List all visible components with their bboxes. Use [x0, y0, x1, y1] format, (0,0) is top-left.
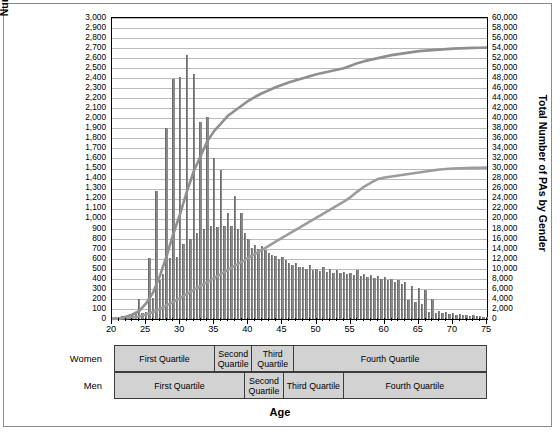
- y-tick-left: 2,400: [60, 73, 106, 81]
- x-tick-minor: [343, 318, 344, 321]
- x-tick-minor: [309, 318, 310, 321]
- x-tick-minor: [404, 318, 405, 321]
- quartile-row: MenFirst QuartileSecondQuartileThird Qua…: [18, 372, 486, 399]
- y-tick-left: 2,700: [60, 43, 106, 51]
- y-tick-right: 12,000: [492, 254, 538, 262]
- y-tick-right: 38,000: [492, 123, 538, 131]
- x-tick-minor: [466, 318, 467, 321]
- x-tick-minor: [411, 318, 412, 321]
- x-tick-minor: [152, 318, 153, 321]
- y-tick-left: 1,700: [60, 143, 106, 151]
- x-tick-label: 60: [371, 324, 397, 334]
- y-tick-left: 200: [60, 294, 106, 302]
- y-tick-left: 600: [60, 254, 106, 262]
- quartile-cell: First Quartile: [114, 345, 215, 372]
- x-tick-minor: [438, 318, 439, 321]
- cumulative-line: [112, 168, 487, 319]
- x-tick-label: 65: [405, 324, 431, 334]
- y-tick-left: 1,000: [60, 213, 106, 221]
- y-tick-right: 44,000: [492, 93, 538, 101]
- x-tick-minor: [193, 318, 194, 321]
- y-tick-left: 2,300: [60, 83, 106, 91]
- y-tick-left: 300: [60, 284, 106, 292]
- x-tick-label: 70: [439, 324, 465, 334]
- y-tick-right: 26,000: [492, 183, 538, 191]
- y-tick-right: 58,000: [492, 23, 538, 31]
- x-tick-minor: [131, 318, 132, 321]
- x-tick-minor: [397, 318, 398, 321]
- x-tick-minor: [479, 318, 480, 321]
- y-tick-right: 50,000: [492, 63, 538, 71]
- y-tick-right: 2,000: [492, 304, 538, 312]
- y-tick-left: 900: [60, 224, 106, 232]
- y-tick-right: 36,000: [492, 133, 538, 141]
- y-tick-right: 0: [492, 314, 538, 322]
- plot-area: [111, 17, 488, 320]
- x-tick-minor: [220, 318, 221, 321]
- y-tick-left: 1,300: [60, 183, 106, 191]
- quartile-row: WomenFirst QuartileSecondQuartileThirdQu…: [18, 345, 486, 372]
- quartile-cell: SecondQuartile: [244, 372, 284, 399]
- y-tick-right: 4,000: [492, 294, 538, 302]
- y-tick-right: 52,000: [492, 53, 538, 61]
- x-tick-minor: [425, 318, 426, 321]
- x-tick-minor: [472, 318, 473, 321]
- y-tick-left: 2,100: [60, 103, 106, 111]
- y-tick-right: 22,000: [492, 203, 538, 211]
- y-tick-right: 42,000: [492, 103, 538, 111]
- y-tick-right: 56,000: [492, 33, 538, 41]
- x-tick-minor: [363, 318, 364, 321]
- x-tick-minor: [125, 318, 126, 321]
- quartile-cell: Third Quartile: [283, 372, 344, 399]
- y-axis-left-title: Number of PAs by Age: [0, 0, 14, 50]
- x-tick-minor: [391, 318, 392, 321]
- x-tick-minor: [206, 318, 207, 321]
- y-tick-left: 2,600: [60, 53, 106, 61]
- y-tick-left: 0: [60, 314, 106, 322]
- x-tick-label: 35: [200, 324, 226, 334]
- y-tick-right: 60,000: [492, 13, 538, 21]
- y-tick-left: 1,600: [60, 153, 106, 161]
- x-tick-minor: [268, 318, 269, 321]
- quartile-row-label: Men: [18, 372, 108, 399]
- x-tick-minor: [172, 318, 173, 321]
- quartile-cell: Fourth Quartile: [343, 372, 487, 399]
- y-tick-left: 1,200: [60, 193, 106, 201]
- y-tick-left: 2,200: [60, 93, 106, 101]
- x-tick-minor: [234, 318, 235, 321]
- y-tick-left: 800: [60, 234, 106, 242]
- x-tick-minor: [159, 318, 160, 321]
- y-tick-right: 8,000: [492, 274, 538, 282]
- x-tick-minor: [200, 318, 201, 321]
- y-tick-left: 1,400: [60, 173, 106, 181]
- x-tick-minor: [288, 318, 289, 321]
- quartile-cells: First QuartileSecondQuartileThirdQuartil…: [114, 345, 486, 372]
- x-tick-minor: [138, 318, 139, 321]
- y-tick-right: 16,000: [492, 234, 538, 242]
- x-tick-minor: [186, 318, 187, 321]
- x-tick-minor: [275, 318, 276, 321]
- x-tick-minor: [459, 318, 460, 321]
- y-tick-right: 20,000: [492, 213, 538, 221]
- quartile-cell: First Quartile: [114, 372, 245, 399]
- y-tick-left: 1,100: [60, 203, 106, 211]
- x-tick-label: 30: [166, 324, 192, 334]
- y-tick-right: 10,000: [492, 264, 538, 272]
- y-tick-left: 2,800: [60, 33, 106, 41]
- x-tick-minor: [241, 318, 242, 321]
- x-tick-minor: [322, 318, 323, 321]
- y-tick-left: 700: [60, 244, 106, 252]
- x-axis-title: Age: [0, 406, 560, 418]
- y-tick-right: 14,000: [492, 244, 538, 252]
- cumulative-line-series: [112, 18, 487, 319]
- x-axis-tick-labels: 202530354045505560657075: [0, 324, 560, 338]
- chart-figure: Number of PAs by Age Total Number of PAs…: [0, 0, 560, 434]
- x-tick-minor: [261, 318, 262, 321]
- y-tick-left: 3,000: [60, 13, 106, 21]
- x-tick-minor: [329, 318, 330, 321]
- x-tick-minor: [118, 318, 119, 321]
- quartile-row-label: Women: [18, 345, 108, 372]
- x-tick-label: 50: [303, 324, 329, 334]
- y-tick-right: 32,000: [492, 153, 538, 161]
- y-tick-left: 1,500: [60, 163, 106, 171]
